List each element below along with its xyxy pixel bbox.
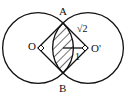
label-o: O [28, 40, 36, 52]
label-half-chord-1: 1 [75, 51, 80, 62]
label-b: B [59, 82, 66, 94]
right-angle-o [38, 45, 44, 51]
geometry-diagram: A B O O' √2 1 [0, 0, 129, 95]
label-o-prime: O' [91, 42, 101, 54]
label-a: A [59, 5, 67, 17]
label-side-sqrt2: √2 [77, 23, 88, 34]
right-angle-o-prime [82, 45, 88, 51]
